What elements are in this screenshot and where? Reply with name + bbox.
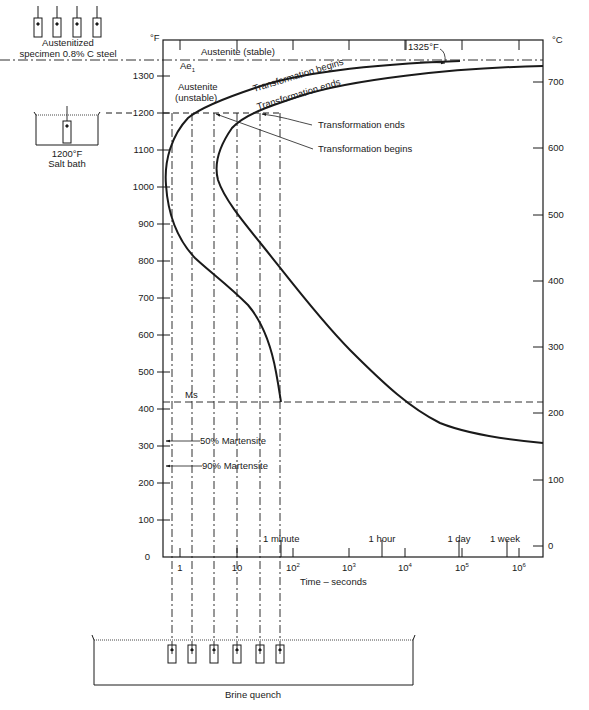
salt-bath-label: Salt bath: [48, 158, 86, 169]
callout-ends-arrow: [262, 114, 312, 125]
unit-fahrenheit: °F: [150, 32, 160, 43]
austenite-stable-label: Austenite (stable): [201, 46, 275, 57]
tick-900: 900: [138, 218, 154, 229]
austenite-unstable-label-1: Austenite: [178, 81, 218, 92]
tick-1300: 1300: [133, 70, 154, 81]
marker-1-week: 1 week: [490, 533, 520, 544]
curve-transformation-begins: [166, 61, 460, 402]
tick-1200: 1200: [133, 107, 154, 118]
martensite-50-label: 50% Martensite: [200, 435, 266, 446]
brine-quench-tank: [92, 635, 415, 685]
callout-begins-label: Transformation begins: [318, 143, 412, 154]
right-axis-labels: 700 600 500 400 300 200 100 0: [548, 76, 564, 551]
ms-label: Ms: [185, 389, 198, 400]
tick-1100: 1100: [134, 144, 154, 155]
left-axis-labels: 1300 1200 1100 1000 900 800 700 600 500 …: [133, 70, 154, 562]
tick-0: 0: [145, 551, 150, 562]
tick-700: 700: [138, 292, 154, 303]
tick-x-1e5: 105: [455, 562, 470, 573]
callout-ends-label: Transformation ends: [318, 119, 405, 130]
tick-x-1e3: 103: [342, 562, 357, 573]
plot-frame: [163, 40, 543, 557]
salt-bath: [34, 106, 100, 145]
tick-c-700: 700: [548, 76, 564, 87]
tick-c-400: 400: [548, 275, 564, 286]
tick-x-100: 102: [286, 562, 301, 573]
ae1-label: Ae1: [180, 60, 196, 73]
x-axis-title: Time – seconds: [300, 576, 367, 587]
austenitized-specimens: [34, 6, 101, 37]
ae1-temp-label: 1325°F: [408, 41, 439, 52]
tick-c-0: 0: [548, 540, 553, 551]
austenite-unstable-label-2: (unstable): [175, 92, 217, 103]
tick-c-100: 100: [548, 474, 564, 485]
tick-c-500: 500: [548, 209, 564, 220]
tick-1000: 1000: [133, 181, 154, 192]
marker-1-minute: 1 minute: [263, 533, 299, 544]
tick-800: 800: [138, 255, 154, 266]
bottom-axis-labels: 1 10 102 103 104 105 106: [177, 562, 526, 573]
tick-c-200: 200: [548, 407, 564, 418]
tick-600: 600: [138, 329, 154, 340]
tick-x-1e4: 104: [398, 562, 413, 573]
tick-100: 100: [138, 514, 154, 525]
specimen-label-line1: Austenitized: [42, 37, 94, 48]
ttt-diagram: Austenitized specimen 0.8% C steel 1200°…: [0, 0, 589, 710]
tick-c-600: 600: [548, 142, 564, 153]
martensite-90-label: 90% Martensite: [202, 460, 268, 471]
tick-300: 300: [138, 440, 154, 451]
specimen-label-line2: specimen 0.8% C steel: [19, 48, 116, 59]
marker-1-day: 1 day: [447, 533, 470, 544]
tick-x-1: 1: [177, 562, 182, 573]
quench-lines: [172, 113, 280, 655]
right-ticks: [533, 82, 543, 546]
tick-500: 500: [138, 366, 154, 377]
tick-x-1e6: 106: [512, 562, 527, 573]
tick-200: 200: [138, 477, 154, 488]
unit-celsius: °C: [552, 34, 563, 45]
brine-quench-label: Brine quench: [225, 689, 281, 700]
tick-c-300: 300: [548, 341, 564, 352]
tick-400: 400: [138, 403, 154, 414]
marker-1-hour: 1 hour: [369, 533, 396, 544]
